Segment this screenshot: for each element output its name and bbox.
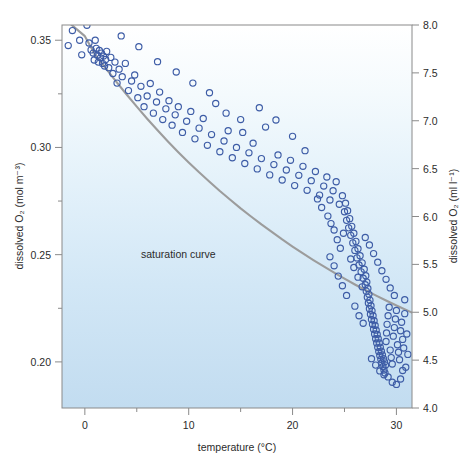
y-axis-left-tick-label: 0.25 bbox=[31, 249, 52, 261]
x-axis-tick-label: 20 bbox=[287, 419, 299, 431]
scatter-chart: 0102030 0.200.250.300.35 4.04.55.05.56.0… bbox=[0, 0, 472, 464]
x-axis-tick-label: 10 bbox=[183, 419, 195, 431]
y-axis-right-title: dissolved O₂ (ml l⁻¹) bbox=[447, 169, 459, 264]
y-axis-right-tick-label: 4.5 bbox=[423, 354, 438, 366]
y-axis-left-tick-label: 0.30 bbox=[31, 141, 52, 153]
y-axis-right-tick-label: 7.0 bbox=[423, 115, 438, 127]
y-axis-left-tick-label: 0.35 bbox=[31, 34, 52, 46]
x-axis-tick-label: 0 bbox=[82, 419, 88, 431]
x-axis-title: temperature (°C) bbox=[198, 441, 276, 453]
chart-annotations: saturation curve bbox=[141, 248, 216, 260]
y-axis-right-tick-label: 6.5 bbox=[423, 163, 438, 175]
x-axis-tick-label: 30 bbox=[391, 419, 403, 431]
y-axis-left-title: dissolved O₂ (mol m⁻³) bbox=[13, 163, 25, 270]
y-axis-right-tick-label: 5.0 bbox=[423, 306, 438, 318]
y-axis-right-tick-label: 6.0 bbox=[423, 211, 438, 223]
y-axis-left-tick-label: 0.20 bbox=[31, 356, 52, 368]
y-axis-right-tick-label: 5.5 bbox=[423, 258, 438, 270]
y-axis-right-tick-label: 7.5 bbox=[423, 67, 438, 79]
y-axis-right-tick-label: 8.0 bbox=[423, 19, 438, 31]
y-axis-right-tick-label: 4.0 bbox=[423, 402, 438, 414]
figure-container: 0102030 0.200.250.300.35 4.04.55.05.56.0… bbox=[0, 0, 472, 464]
saturation-curve-annotation: saturation curve bbox=[141, 248, 216, 260]
